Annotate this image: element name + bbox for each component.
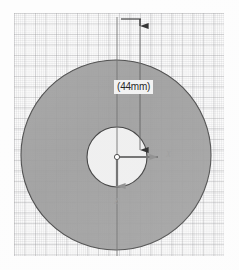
- z-axis-label: Z: [114, 198, 118, 206]
- part-drawing-svg: [0, 0, 239, 270]
- origin-point-marker: [114, 154, 119, 159]
- diameter-dimension-label: (44mm): [114, 80, 153, 94]
- drawing-canvas: (44mm) X Z: [0, 0, 239, 270]
- x-axis-label: X: [166, 151, 171, 159]
